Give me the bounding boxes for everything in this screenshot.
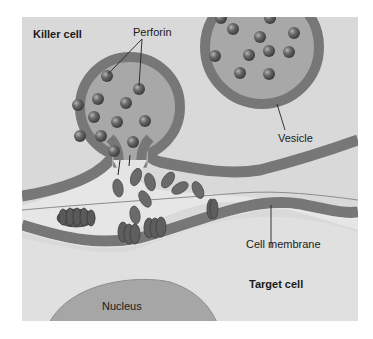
label-target-cell: Target cell [249,278,303,290]
label-killer-cell: Killer cell [33,28,82,40]
perforin-complex [57,208,95,227]
label-cell-membrane: Cell membrane [246,238,321,250]
label-nucleus: Nucleus [102,300,142,312]
vesicle [205,0,319,104]
perforin-diagram: Killer cell Perforin Vesicle Cell membra… [0,0,373,339]
label-vesicle: Vesicle [278,132,313,144]
label-perforin: Perforin [133,26,172,38]
